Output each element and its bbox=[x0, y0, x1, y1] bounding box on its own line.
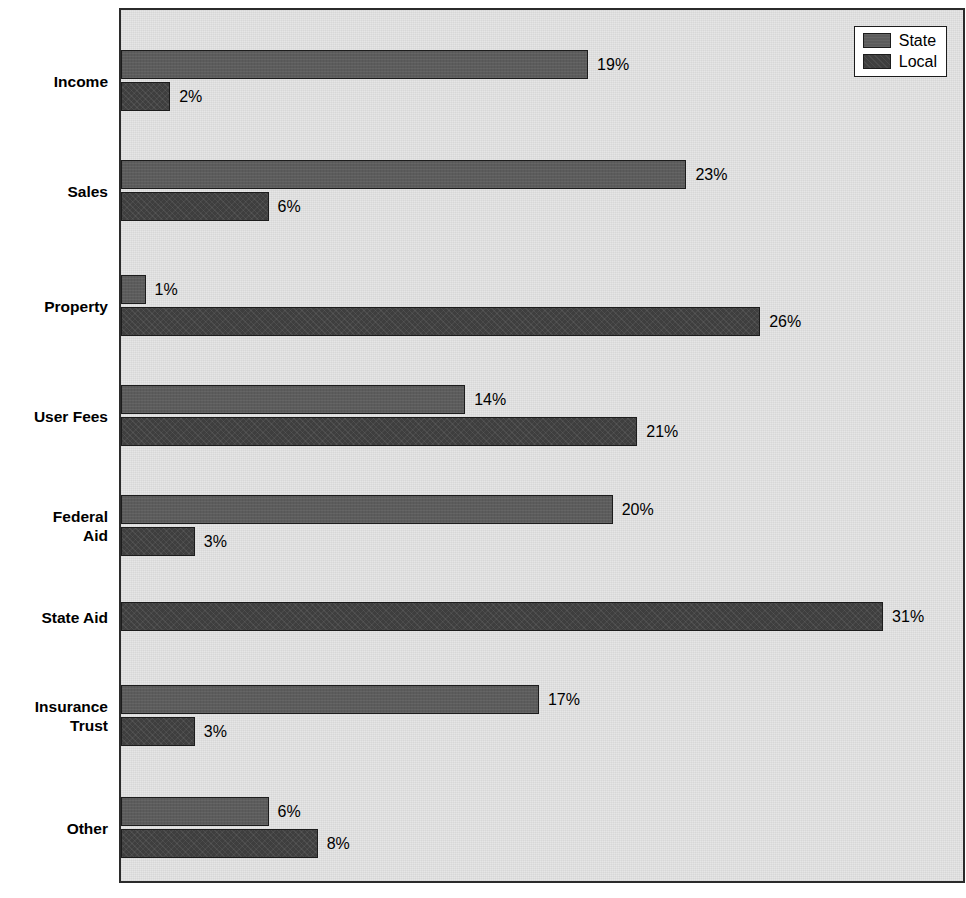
bar-group-income: Income19%2% bbox=[121, 50, 963, 111]
bar-slot-local: 3% bbox=[121, 527, 963, 556]
bar-local[interactable] bbox=[121, 829, 318, 858]
chart-title bbox=[119, 0, 966, 3]
bar-state[interactable] bbox=[121, 275, 146, 304]
bar-group-user-fees: User Fees14%21% bbox=[121, 385, 963, 446]
bar-state[interactable] bbox=[121, 160, 686, 189]
bar-group-state-aid: State Aid31% bbox=[121, 602, 963, 631]
bar-value-label: 20% bbox=[622, 501, 654, 519]
bar-slot-state: 19% bbox=[121, 50, 963, 79]
category-label: User Fees bbox=[0, 406, 108, 425]
chart-legend: StateLocal bbox=[854, 26, 947, 77]
bar-value-label: 31% bbox=[892, 608, 924, 626]
legend-entry-local[interactable]: Local bbox=[863, 53, 937, 70]
chart-container: Income19%2%Sales23%6%Property1%26%User F… bbox=[0, 0, 966, 898]
category-label: State Aid bbox=[0, 607, 108, 626]
bar-slot-local: 8% bbox=[121, 829, 963, 858]
legend-swatch-local-icon bbox=[863, 54, 891, 69]
category-label: Property bbox=[0, 296, 108, 315]
bar-state[interactable] bbox=[121, 797, 269, 826]
bar-state[interactable] bbox=[121, 50, 588, 79]
bar-state[interactable] bbox=[121, 495, 613, 524]
bar-slot-local: 21% bbox=[121, 417, 963, 446]
legend-swatch-state-icon bbox=[863, 33, 891, 48]
category-label: Insurance Trust bbox=[0, 697, 108, 735]
bar-value-label: 2% bbox=[179, 88, 202, 106]
bar-value-label: 6% bbox=[278, 198, 301, 216]
bar-slot-state: 17% bbox=[121, 685, 963, 714]
bar-slot-local: 3% bbox=[121, 717, 963, 746]
category-label: Federal Aid bbox=[0, 507, 108, 545]
bar-slot-state: 14% bbox=[121, 385, 963, 414]
bar-local[interactable] bbox=[121, 602, 883, 631]
bar-value-label: 14% bbox=[474, 391, 506, 409]
bar-value-label: 3% bbox=[204, 533, 227, 551]
bar-slot-state: 23% bbox=[121, 160, 963, 189]
bar-value-label: 1% bbox=[155, 281, 178, 299]
bar-value-label: 23% bbox=[695, 166, 727, 184]
bar-slot-state: 6% bbox=[121, 797, 963, 826]
plot-area: Income19%2%Sales23%6%Property1%26%User F… bbox=[119, 8, 965, 883]
bar-local[interactable] bbox=[121, 717, 195, 746]
bar-local[interactable] bbox=[121, 307, 760, 336]
bar-value-label: 3% bbox=[204, 723, 227, 741]
bar-value-label: 26% bbox=[769, 313, 801, 331]
bar-value-label: 21% bbox=[646, 423, 678, 441]
bar-local[interactable] bbox=[121, 417, 637, 446]
legend-entry-state[interactable]: State bbox=[863, 32, 937, 49]
bar-slot-state: 20% bbox=[121, 495, 963, 524]
bar-group-sales: Sales23%6% bbox=[121, 160, 963, 221]
bar-slot-local: 31% bbox=[121, 602, 963, 631]
bar-local[interactable] bbox=[121, 192, 269, 221]
bar-slot-local: 26% bbox=[121, 307, 963, 336]
bar-group-insurance-trust: Insurance Trust17%3% bbox=[121, 685, 963, 746]
bar-slot-local: 2% bbox=[121, 82, 963, 111]
bar-slot-local: 6% bbox=[121, 192, 963, 221]
bar-state[interactable] bbox=[121, 685, 539, 714]
bar-group-federal-aid: Federal Aid20%3% bbox=[121, 495, 963, 556]
category-label: Other bbox=[0, 818, 108, 837]
legend-label: Local bbox=[899, 53, 937, 70]
bar-local[interactable] bbox=[121, 527, 195, 556]
bar-slot-state: 1% bbox=[121, 275, 963, 304]
bar-state[interactable] bbox=[121, 385, 465, 414]
bar-local[interactable] bbox=[121, 82, 170, 111]
bar-value-label: 6% bbox=[278, 803, 301, 821]
bar-group-other: Other6%8% bbox=[121, 797, 963, 858]
bar-value-label: 19% bbox=[597, 56, 629, 74]
legend-label: State bbox=[899, 32, 936, 49]
category-label: Sales bbox=[0, 181, 108, 200]
bar-group-property: Property1%26% bbox=[121, 275, 963, 336]
category-label: Income bbox=[0, 71, 108, 90]
bar-value-label: 17% bbox=[548, 691, 580, 709]
bar-value-label: 8% bbox=[327, 835, 350, 853]
